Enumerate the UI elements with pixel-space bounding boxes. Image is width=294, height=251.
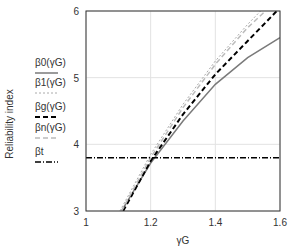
x-tick-label: 1.2 [144, 217, 158, 228]
plot-frame [86, 11, 280, 211]
legend-label: β0(γG) [35, 57, 66, 68]
y-tick-label: 3 [73, 206, 79, 217]
x-tick-label: 1.4 [208, 217, 222, 228]
series-lines [86, 11, 280, 211]
legend-label: βg(γG) [35, 101, 66, 112]
y-axis-label: Reliability index [4, 89, 15, 158]
legend-label: βn(γG) [35, 122, 66, 133]
legend: β0(γG)β1(γG)βg(γG)βn(γG)βt [35, 57, 66, 162]
legend-label: βt [35, 146, 44, 157]
y-tick-label: 4 [73, 139, 79, 150]
y-tick-label: 6 [73, 6, 79, 17]
y-axis-ticks: 3456 [73, 6, 79, 217]
series-line-1 [120, 11, 261, 211]
reliability-chart: 11.21.41.6 3456 γG Reliability index β0(… [0, 0, 294, 251]
x-axis-label: γG [177, 235, 190, 246]
series-line-0 [122, 38, 280, 211]
x-axis-ticks: 11.21.41.6 [83, 217, 287, 228]
legend-label: β1(γG) [35, 77, 66, 88]
x-tick-label: 1.6 [273, 217, 287, 228]
series-line-3 [122, 11, 266, 211]
grid-lines [86, 11, 280, 211]
x-tick-label: 1 [83, 217, 89, 228]
series-line-2 [123, 11, 277, 211]
y-tick-label: 5 [73, 73, 79, 84]
